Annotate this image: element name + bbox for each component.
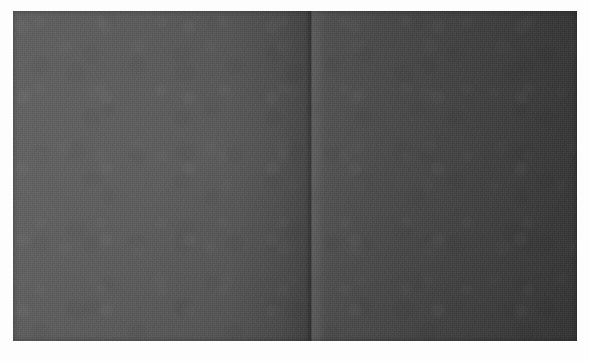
screenshot-canvas [0, 0, 589, 361]
vignette-overlay [13, 11, 577, 341]
dark-spread-surface [13, 11, 577, 341]
